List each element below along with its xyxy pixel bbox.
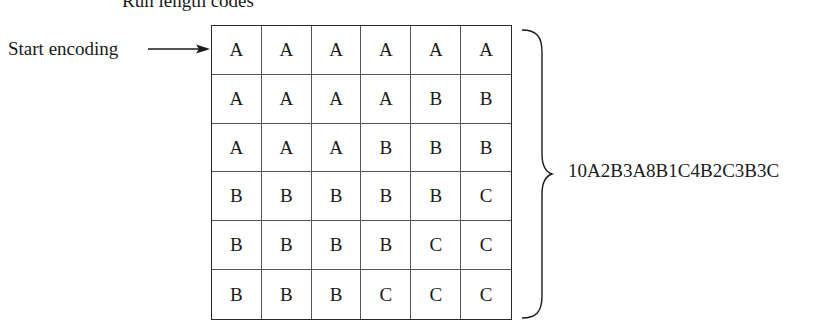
grid-cell: C xyxy=(361,270,411,319)
right-curly-brace-icon xyxy=(520,28,554,320)
grid-cell: A xyxy=(312,75,362,124)
grid-cell: C xyxy=(461,172,511,221)
grid-cell: B xyxy=(461,124,511,173)
grid-cell: B xyxy=(361,221,411,270)
grid-cell: A xyxy=(262,75,312,124)
grid-cell: A xyxy=(212,75,262,124)
grid-cell: B xyxy=(361,172,411,221)
grid-cell: C xyxy=(411,221,461,270)
grid-cell: A xyxy=(212,26,262,75)
grid-cell: B xyxy=(312,172,362,221)
grid-cell: B xyxy=(411,124,461,173)
diagram-title: Run length codes xyxy=(122,0,254,12)
grid-cell: B xyxy=(212,270,262,319)
right-arrow-icon xyxy=(148,43,210,55)
grid-cell: A xyxy=(361,75,411,124)
run-length-grid: AAAAAAAAAABBAAABBBBBBBBCBBBBCCBBBCCC xyxy=(211,25,512,320)
grid-cell: B xyxy=(212,172,262,221)
grid-cell: B xyxy=(312,221,362,270)
encoded-output: 10A2B3A8B1C4B2C3B3C xyxy=(568,160,779,182)
grid-cell: B xyxy=(312,270,362,319)
grid-cell: B xyxy=(411,75,461,124)
grid-cell: B xyxy=(262,172,312,221)
grid-cell: B xyxy=(262,270,312,319)
grid-cell: A xyxy=(361,26,411,75)
grid-cell: B xyxy=(212,221,262,270)
grid-cell: C xyxy=(461,221,511,270)
start-encoding-label: Start encoding xyxy=(8,38,118,60)
grid-cell: A xyxy=(411,26,461,75)
grid-cell: A xyxy=(312,124,362,173)
grid-cell: C xyxy=(411,270,461,319)
grid-cell: A xyxy=(262,26,312,75)
grid-cell: A xyxy=(262,124,312,173)
grid-cell: A xyxy=(461,26,511,75)
grid-cell: B xyxy=(262,221,312,270)
grid-cell: C xyxy=(461,270,511,319)
grid-cell: A xyxy=(212,124,262,173)
grid-cell: B xyxy=(461,75,511,124)
grid-cell: B xyxy=(411,172,461,221)
grid-cell: B xyxy=(361,124,411,173)
grid-cell: A xyxy=(312,26,362,75)
